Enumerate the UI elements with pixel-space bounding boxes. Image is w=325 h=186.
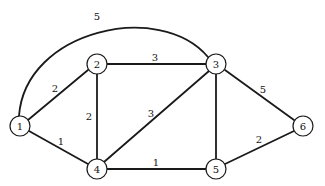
node-6: 6 — [293, 116, 313, 136]
nodes: 1 2 3 4 5 6 — [10, 54, 313, 179]
edge-labels: 5 2 1 3 2 3 1 5 2 — [52, 11, 266, 168]
edge-1-2 — [28, 70, 88, 120]
node-1-label: 1 — [17, 121, 23, 132]
edge-label-5-6: 2 — [256, 134, 262, 145]
edge-label-1-4: 1 — [58, 136, 64, 147]
edge-label-2-4: 2 — [86, 111, 92, 122]
node-1: 1 — [10, 116, 30, 136]
edge-4-3 — [104, 71, 209, 162]
node-5: 5 — [206, 159, 226, 179]
node-2-label: 2 — [94, 59, 100, 70]
node-4: 4 — [87, 159, 107, 179]
node-5-label: 5 — [213, 164, 219, 175]
edge-label-2-3: 3 — [152, 52, 158, 63]
node-6-label: 6 — [300, 121, 306, 132]
edge-label-3-6: 5 — [260, 84, 266, 95]
node-2: 2 — [87, 54, 107, 74]
edge-label-1-2: 2 — [52, 83, 58, 94]
edge-label-4-3: 3 — [148, 108, 154, 119]
graph-diagram: 5 2 1 3 2 3 1 5 2 1 2 3 4 5 — [0, 0, 325, 186]
edges — [19, 28, 294, 169]
edge-label-4-5: 1 — [153, 157, 159, 168]
edge-label-1-3: 5 — [94, 11, 100, 22]
edge-3-6 — [225, 70, 294, 120]
node-3-label: 3 — [213, 59, 219, 70]
node-4-label: 4 — [94, 164, 100, 175]
node-3: 3 — [206, 54, 226, 74]
